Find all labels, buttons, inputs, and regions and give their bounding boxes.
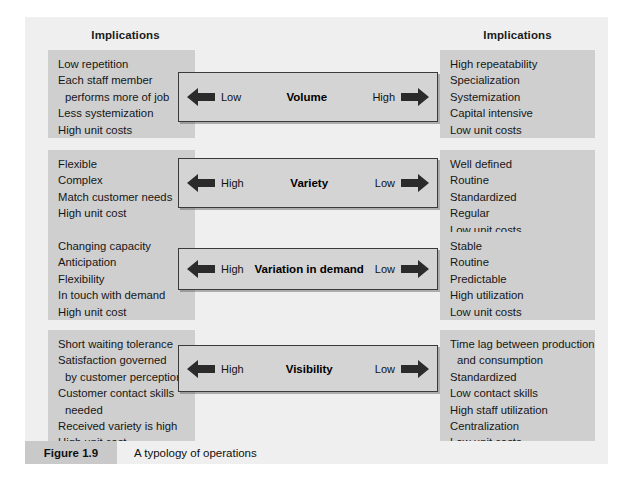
implications-box-left: Low repetitionEach staff memberperforms … (48, 50, 195, 138)
implication-line: needed (58, 402, 187, 418)
arrow-right-icon (400, 86, 430, 108)
dimension-right-label: Low (375, 363, 395, 375)
implication-line: Satisfaction governed (58, 352, 187, 368)
dimension-left-label: High (221, 177, 244, 189)
implication-line: Systemization (450, 89, 587, 105)
implication-line: and consumption (450, 352, 587, 368)
dimension-low-end: High (186, 172, 244, 194)
figure-title: A typology of operations (117, 441, 608, 464)
figure-caption: Figure 1.9 A typology of operations (25, 441, 608, 464)
implication-line: performs more of job (58, 89, 187, 105)
implication-line: High unit costs (58, 122, 187, 138)
implication-line: Short waiting tolerance (58, 336, 187, 352)
implication-line: Low repetition (58, 56, 187, 72)
dimension-right-label: High (372, 91, 395, 103)
implication-line: Regular (450, 205, 587, 221)
implication-line: Well defined (450, 156, 587, 172)
implications-header-left: Implications (48, 29, 203, 41)
implication-line: Specialization (450, 72, 587, 88)
dimension-low-end: High (186, 358, 244, 380)
implication-line: Each staff member (58, 72, 187, 88)
figure-number: Figure 1.9 (25, 441, 117, 464)
implication-line: by customer perception (58, 369, 187, 385)
implication-line: Routine (450, 254, 587, 270)
dimension-right-label: Low (375, 263, 395, 275)
implication-line: High unit cost (58, 304, 187, 320)
dimension-bar-variety[interactable]: HighVarietyLow (178, 158, 438, 208)
dimension-bar-visibility[interactable]: HighVisibilityLow (178, 345, 438, 392)
implication-line: Flexible (58, 156, 187, 172)
arrow-right-icon (400, 358, 430, 380)
dimension-high-end: Low (375, 258, 430, 280)
implications-box-left: FlexibleComplexMatch customer needsHigh … (48, 150, 195, 238)
dimension-high-end: High (372, 86, 430, 108)
dimension-left-label: High (221, 263, 244, 275)
implication-line: Customer contact skills (58, 385, 187, 401)
implication-line: Low contact skills (450, 385, 587, 401)
arrow-left-icon (186, 358, 216, 380)
implications-box-left: Short waiting toleranceSatisfaction gove… (48, 330, 195, 450)
implication-line: In touch with demand (58, 287, 187, 303)
implication-line: High repeatability (450, 56, 587, 72)
implication-line: Standardized (450, 369, 587, 385)
implication-line: Standardized (450, 189, 587, 205)
implication-line: Low unit costs (450, 122, 587, 138)
arrow-left-icon (186, 86, 216, 108)
implication-line: Complex (58, 172, 187, 188)
implication-line: Flexibility (58, 271, 187, 287)
implication-line: Stable (450, 238, 587, 254)
dimension-title: Volume (241, 91, 372, 103)
implication-line: Capital intensive (450, 105, 587, 121)
implications-box-left: Changing capacityAnticipationFlexibility… (48, 232, 195, 320)
implication-line: Predictable (450, 271, 587, 287)
implications-box-right: High repeatabilitySpecializationSystemiz… (440, 50, 595, 138)
dimension-low-end: High (186, 258, 244, 280)
dimension-bar-volume[interactable]: LowVolumeHigh (178, 72, 438, 122)
dimension-left-label: High (221, 363, 244, 375)
dimension-title: Visibility (244, 363, 375, 375)
implication-line: Time lag between production (450, 336, 587, 352)
dimension-bar-variation-in-demand[interactable]: HighVariation in demandLow (178, 248, 438, 290)
implications-box-right: StableRoutinePredictableHigh utilization… (440, 232, 595, 320)
dimension-left-label: Low (221, 91, 241, 103)
arrow-right-icon (400, 258, 430, 280)
implications-box-right: Time lag between productionand consumpti… (440, 330, 595, 450)
implication-line: High utilization (450, 287, 587, 303)
arrow-left-icon (186, 258, 216, 280)
implication-line: Centralization (450, 418, 587, 434)
implication-line: Changing capacity (58, 238, 187, 254)
dimension-title: Variety (244, 177, 375, 189)
implications-header-right: Implications (440, 29, 595, 41)
dimension-high-end: Low (375, 358, 430, 380)
implication-line: Low unit costs (450, 304, 587, 320)
implication-line: High unit cost (58, 205, 187, 221)
arrow-right-icon (400, 172, 430, 194)
implication-line: Match customer needs (58, 189, 187, 205)
arrow-left-icon (186, 172, 216, 194)
implications-box-right: Well definedRoutineStandardizedRegularLo… (440, 150, 595, 238)
implication-line: Less systemization (58, 105, 187, 121)
dimension-high-end: Low (375, 172, 430, 194)
dimension-title: Variation in demand (244, 263, 375, 275)
implication-line: Routine (450, 172, 587, 188)
implication-line: Received variety is high (58, 418, 187, 434)
dimension-low-end: Low (186, 86, 241, 108)
dimension-right-label: Low (375, 177, 395, 189)
implication-line: Anticipation (58, 254, 187, 270)
implication-line: High staff utilization (450, 402, 587, 418)
